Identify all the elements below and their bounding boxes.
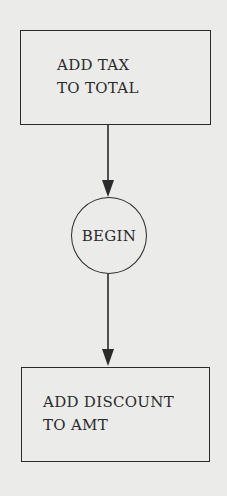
start-node-begin: BEGIN — [71, 197, 147, 274]
arrowhead-icon — [102, 180, 114, 197]
arrow-begin-to-discount — [102, 274, 114, 366]
arrowhead-icon — [102, 349, 114, 366]
start-node-label: BEGIN — [82, 227, 137, 245]
process-box-add-discount-line-1: ADD DISCOUNT — [43, 391, 174, 414]
process-box-add-discount-line-2: TO AMT — [43, 414, 108, 437]
arrow-tax-to-begin — [102, 125, 114, 197]
